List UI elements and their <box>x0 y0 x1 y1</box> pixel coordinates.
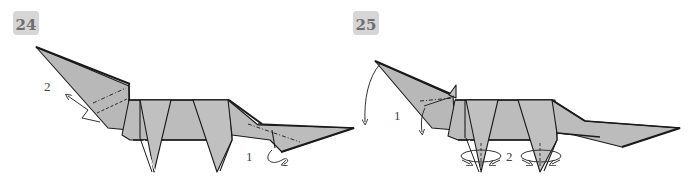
step-label: 2 <box>506 149 513 164</box>
step-label: 1 <box>246 149 253 164</box>
step-24-figure: 2 1 <box>36 47 354 172</box>
step-label: 2 <box>44 79 51 94</box>
head <box>375 61 456 130</box>
tail <box>228 100 354 152</box>
origami-diagram: 2 1 <box>0 0 695 190</box>
step-25-figure: 1 2 <box>365 61 680 172</box>
tail <box>552 100 680 147</box>
swivel-arrow <box>268 150 288 164</box>
step-label: 1 <box>394 108 401 123</box>
curved-arrow <box>365 64 380 122</box>
